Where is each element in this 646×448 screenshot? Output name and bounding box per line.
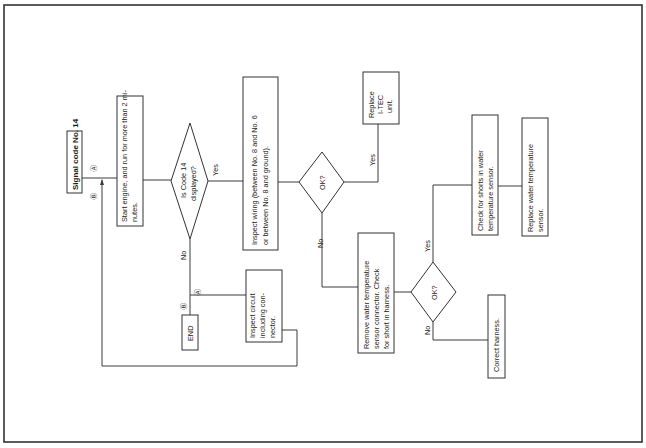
svg-text:I-TEC: I-TEC <box>376 95 385 114</box>
connector-ok1-no <box>322 213 358 287</box>
label-yes-3: Yes <box>423 240 432 252</box>
svg-text:Inspect circuit: Inspect circuit <box>248 293 257 338</box>
svg-text:Is Code 14: Is Code 14 <box>179 163 188 198</box>
svg-text:Check for shorts in water: Check for shorts in water <box>476 150 485 231</box>
marker-b-top: Ⓑ <box>89 192 98 200</box>
svg-text:temperature sensor.: temperature sensor. <box>486 166 495 231</box>
remove-sensor-box: Remove water temperature sensor connecto… <box>358 233 394 353</box>
start-box: Start engine, and run for more than 2 mi… <box>117 90 143 226</box>
decision-ok-1: OK? <box>299 152 344 213</box>
label-yes-2: Yes <box>368 154 377 166</box>
svg-text:sensor.: sensor. <box>536 208 545 232</box>
connector-ok2-no <box>433 322 488 340</box>
label-no-2: No <box>316 239 325 248</box>
inspect-wiring-box: Inspect wiring (between No. 8 and No. 6 … <box>243 77 278 250</box>
decision-code14: Is Code 14 displayed? <box>171 123 208 239</box>
svg-text:nutes.: nutes. <box>130 202 139 222</box>
correct-harness-box: Correct harness. <box>488 295 505 378</box>
svg-text:including con-: including con- <box>258 292 267 338</box>
svg-text:Inspect wiring (between No. 8: Inspect wiring (between No. 8 and No. 6 <box>250 115 259 245</box>
svg-text:displayed?: displayed? <box>189 166 198 201</box>
svg-text:for short in harness.: for short in harness. <box>382 285 391 350</box>
inspect-circuit-box: Inspect circuit including con- nector. <box>246 270 282 342</box>
svg-text:Signal code No. 14: Signal code No. 14 <box>71 118 80 190</box>
label-no-1: No <box>179 251 188 260</box>
marker-a-top: Ⓐ <box>89 164 98 172</box>
svg-text:Replace water temperature: Replace water temperature <box>526 144 535 232</box>
svg-text:nector.: nector. <box>268 316 277 338</box>
check-shorts-box: Check for shorts in water temperature se… <box>472 115 498 235</box>
svg-text:Correct harness.: Correct harness. <box>492 318 501 372</box>
marker-b-mid: Ⓑ <box>179 302 188 310</box>
svg-text:OK?: OK? <box>318 175 327 190</box>
svg-text:unit.: unit. <box>385 99 394 113</box>
svg-text:OK?: OK? <box>430 285 439 300</box>
svg-text:Remove water temperature: Remove water temperature <box>362 261 371 349</box>
label-yes-1: Yes <box>211 164 220 176</box>
svg-text:or between No. 8 and ground).: or between No. 8 and ground). <box>261 146 270 245</box>
connector-ok1-yes <box>344 124 378 182</box>
flowchart-canvas: Signal code No. 14 Ⓐ Ⓑ Start engine, and… <box>0 0 646 448</box>
label-no-3: No <box>423 326 432 335</box>
svg-text:Start engine, and run for more: Start engine, and run for more than 2 mi… <box>120 90 129 222</box>
svg-text:sensor connector. Check: sensor connector. Check <box>372 268 381 349</box>
replace-itec-box: Replace I-TEC unit. <box>363 72 399 124</box>
svg-text:END: END <box>186 326 195 341</box>
decision-ok-2: OK? <box>411 262 456 322</box>
arrow-head-icon <box>100 179 104 185</box>
title-box: Signal code No. 14 <box>67 118 82 193</box>
end-box: END <box>182 315 198 350</box>
connector-ok2-yes <box>433 185 472 262</box>
replace-sensor-box: Replace water temperature sensor. <box>522 118 548 236</box>
svg-text:Replace: Replace <box>367 91 376 118</box>
